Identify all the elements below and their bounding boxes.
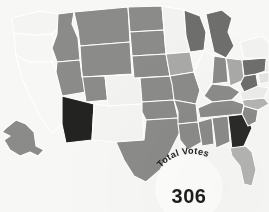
state-SD[interactable] xyxy=(130,30,166,56)
total-votes-value: 306 xyxy=(172,185,207,207)
state-OK[interactable] xyxy=(142,100,178,120)
state-NJ[interactable] xyxy=(265,60,269,72)
state-AZ[interactable] xyxy=(62,96,94,143)
state-NE[interactable] xyxy=(132,54,170,78)
state-CO[interactable] xyxy=(105,74,142,106)
state-WY[interactable] xyxy=(80,42,132,77)
state-ND[interactable] xyxy=(128,6,164,32)
state-IN[interactable] xyxy=(212,56,228,84)
state-AR[interactable] xyxy=(174,100,198,124)
us-electoral-map: Total Votes 306 xyxy=(0,0,269,212)
state-NM[interactable] xyxy=(92,104,144,142)
state-MD[interactable] xyxy=(258,72,269,84)
state-MT[interactable] xyxy=(74,7,130,46)
state-KS[interactable] xyxy=(140,76,174,102)
